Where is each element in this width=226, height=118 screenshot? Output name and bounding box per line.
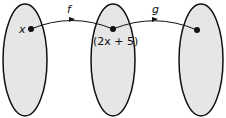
codomain-set: [179, 4, 223, 116]
input-point: [28, 26, 34, 32]
mapping-diagram: x (2x + 5) f g: [0, 0, 226, 118]
g-label: g: [152, 3, 159, 16]
intermediate-set: [91, 4, 135, 116]
output-point: [194, 27, 200, 33]
intermediate-label: (2x + 5): [93, 35, 138, 48]
input-label: x: [18, 23, 26, 36]
domain-set: [3, 4, 47, 116]
arrowhead-f: [69, 17, 75, 22]
intermediate-point: [110, 26, 116, 32]
f-label: f: [67, 3, 73, 16]
